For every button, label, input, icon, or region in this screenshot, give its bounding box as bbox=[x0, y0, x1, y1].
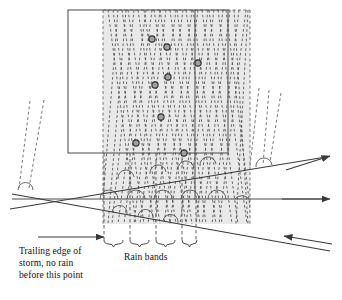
trailing-edge-line-1: Trailing edge of bbox=[19, 246, 81, 256]
trailing-edge-line-3: before this point bbox=[19, 270, 83, 280]
trailing-edge-line-2: storm, no rain bbox=[19, 258, 73, 268]
right-rain-shaft bbox=[250, 88, 281, 166]
right-shaft-ground-arc bbox=[256, 158, 272, 167]
downward-ray-arrow bbox=[284, 236, 332, 244]
rain-band-braces bbox=[104, 240, 197, 247]
left-shaft-ground-arc bbox=[18, 183, 33, 191]
figure-canvas: Trailing edge ofstorm, no rainbefore thi… bbox=[0, 0, 342, 300]
left-rain-shaft bbox=[19, 100, 44, 188]
rain-bands-caption: Rain bands bbox=[124, 251, 167, 263]
trailing-edge-caption: Trailing edge ofstorm, no rainbefore thi… bbox=[19, 245, 83, 282]
